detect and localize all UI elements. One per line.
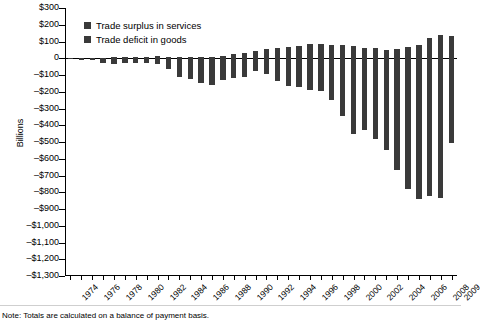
x-tick-label: 1978 xyxy=(124,282,144,302)
x-axis-line xyxy=(65,275,457,276)
y-tick xyxy=(59,259,65,260)
bar xyxy=(449,58,454,143)
footer-divider xyxy=(0,305,461,306)
y-tick-label: –$1,100 xyxy=(0,237,59,247)
bar xyxy=(384,58,389,150)
y-tick xyxy=(59,276,65,277)
x-tick xyxy=(430,276,431,280)
y-tick xyxy=(59,226,65,227)
bar xyxy=(296,46,301,58)
y-tick xyxy=(59,209,65,210)
legend-label-goods: Trade deficit in goods xyxy=(96,34,186,45)
y-tick-label: $300 xyxy=(0,2,59,12)
x-tick-label: 1992 xyxy=(276,282,296,302)
y-tick-label: –$600 xyxy=(0,153,59,163)
bar xyxy=(384,50,389,59)
x-tick xyxy=(81,276,82,280)
bar xyxy=(427,38,432,58)
y-tick-label: –$500 xyxy=(0,136,59,146)
y-tick xyxy=(59,243,65,244)
legend: Trade surplus in services Trade deficit … xyxy=(84,19,201,47)
bar xyxy=(275,58,280,80)
y-tick xyxy=(59,142,65,143)
bar xyxy=(242,58,247,77)
y-tick-label: –$100 xyxy=(0,69,59,79)
bar xyxy=(362,48,367,59)
x-tick-label: 1976 xyxy=(102,282,122,302)
legend-label-services: Trade surplus in services xyxy=(96,20,201,31)
bar xyxy=(155,58,160,64)
x-tick xyxy=(310,276,311,280)
x-tick xyxy=(234,276,235,280)
y-tick-label: –$700 xyxy=(0,170,59,180)
bar xyxy=(340,58,345,116)
x-tick-label: 1980 xyxy=(145,282,165,302)
x-tick xyxy=(223,276,224,280)
bar xyxy=(438,35,443,58)
x-tick xyxy=(321,276,322,280)
bar xyxy=(166,58,171,69)
y-tick xyxy=(59,159,65,160)
bar xyxy=(373,48,378,58)
x-tick xyxy=(179,276,180,280)
y-tick-label: $200 xyxy=(0,19,59,29)
x-tick xyxy=(332,276,333,280)
bar xyxy=(253,51,258,58)
y-tick-label: –$300 xyxy=(0,103,59,113)
x-tick xyxy=(452,276,453,280)
y-tick-label: –$1,300 xyxy=(0,270,59,280)
x-tick-label: 1994 xyxy=(298,282,318,302)
y-tick-label: 0 xyxy=(0,52,59,62)
x-tick-label: 1990 xyxy=(254,282,274,302)
x-tick xyxy=(136,276,137,280)
bar xyxy=(209,58,214,85)
x-tick-label: 1974 xyxy=(80,282,100,302)
bar xyxy=(198,58,203,82)
bar xyxy=(405,58,410,189)
x-tick xyxy=(114,276,115,280)
x-tick xyxy=(354,276,355,280)
x-tick-label: 1996 xyxy=(320,282,340,302)
x-tick xyxy=(70,276,71,280)
y-tick-label: –$1,200 xyxy=(0,253,59,263)
bar xyxy=(416,45,421,58)
bar xyxy=(231,58,236,77)
legend-swatch-goods xyxy=(84,36,91,43)
bar xyxy=(275,48,280,58)
x-tick xyxy=(343,276,344,280)
x-tick xyxy=(103,276,104,280)
bar xyxy=(144,58,149,63)
x-tick xyxy=(190,276,191,280)
x-tick xyxy=(288,276,289,280)
bar xyxy=(264,49,269,58)
bar xyxy=(362,58,367,130)
x-tick xyxy=(364,276,365,280)
x-tick xyxy=(441,276,442,280)
bar xyxy=(79,58,84,60)
y-tick xyxy=(59,75,65,76)
bar xyxy=(405,47,410,58)
x-tick xyxy=(299,276,300,280)
y-tick xyxy=(59,109,65,110)
legend-swatch-services xyxy=(84,22,91,29)
bar xyxy=(307,44,312,58)
x-tick-label: 1988 xyxy=(232,282,252,302)
bar xyxy=(394,49,399,58)
bar xyxy=(307,58,312,90)
y-tick-label: –$400 xyxy=(0,119,59,129)
bar xyxy=(264,58,269,74)
bar xyxy=(111,58,116,64)
x-tick xyxy=(266,276,267,280)
x-tick-label: 1986 xyxy=(211,282,231,302)
y-tick xyxy=(59,125,65,126)
y-tick-label: –$1,000 xyxy=(0,220,59,230)
x-tick-label: 2004 xyxy=(407,282,427,302)
x-tick xyxy=(386,276,387,280)
x-tick xyxy=(92,276,93,280)
legend-item-services: Trade surplus in services xyxy=(84,19,201,31)
bar xyxy=(329,45,334,58)
x-tick-label: 2000 xyxy=(363,282,383,302)
y-tick-label: –$800 xyxy=(0,186,59,196)
y-tick xyxy=(59,92,65,93)
